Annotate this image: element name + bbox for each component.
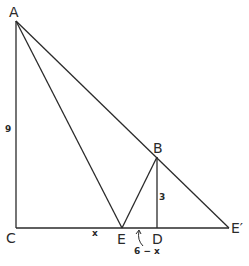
point-label-B: B (153, 140, 163, 156)
point-label-C: C (6, 230, 16, 246)
length-label-ED: 6 − x (134, 246, 160, 256)
segment-AE-prime (16, 21, 229, 228)
geometry-diagram: A B C D E E′ 9 3 x 6 − x (0, 0, 249, 266)
segment-EB (122, 157, 157, 228)
point-label-E: E (117, 231, 126, 247)
length-label-AC: 9 (5, 124, 11, 134)
length-label-BD: 3 (159, 192, 165, 202)
segment-AE (16, 21, 122, 228)
diagram-svg: A B C D E E′ 9 3 x 6 − x (0, 0, 249, 266)
point-label-D: D (152, 231, 163, 247)
point-label-A: A (9, 4, 19, 20)
point-label-E-prime: E′ (231, 220, 243, 236)
length-label-CE: x (92, 228, 98, 238)
